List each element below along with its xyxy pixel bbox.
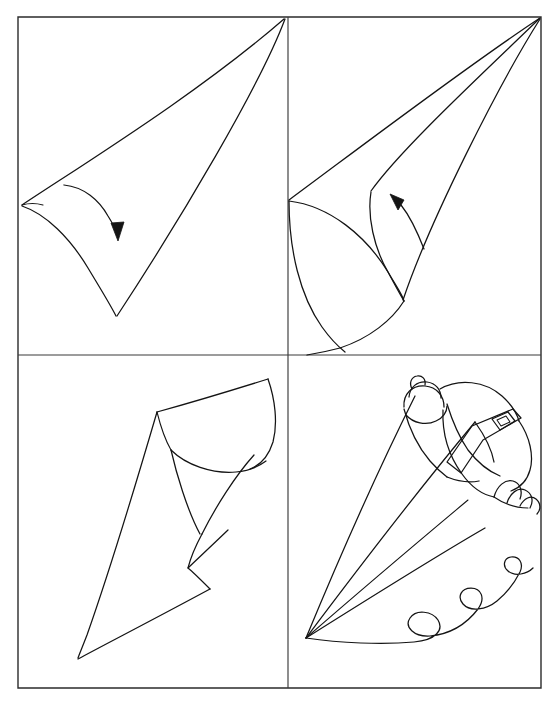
panel-2[interactable] <box>288 17 541 355</box>
panel-1[interactable] <box>19 17 288 355</box>
panel-4[interactable] <box>288 355 541 688</box>
panel-3[interactable] <box>19 355 288 688</box>
figure-root <box>0 0 559 703</box>
